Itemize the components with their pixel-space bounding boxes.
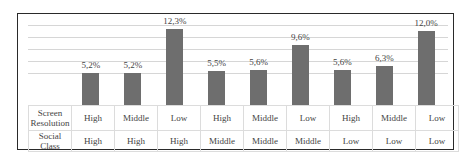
table-cell: Middle bbox=[373, 106, 416, 131]
table-cell: Middle bbox=[244, 131, 287, 152]
table-cell: High bbox=[72, 106, 115, 131]
table-cell: Low bbox=[416, 131, 459, 152]
table-cell: Middle bbox=[201, 131, 244, 152]
bar bbox=[334, 70, 351, 105]
bar bbox=[166, 29, 183, 105]
bar bbox=[82, 73, 99, 105]
table-cell: Low bbox=[416, 106, 459, 131]
bar bbox=[376, 66, 393, 105]
data-label: 12,0% bbox=[401, 18, 451, 28]
table-cell: Middle bbox=[115, 106, 158, 131]
data-table: Screen Resolution High Middle Low High M… bbox=[28, 105, 459, 152]
row-header: Screen Resolution bbox=[29, 106, 72, 131]
table-cell: Low bbox=[330, 131, 373, 152]
data-label: 5,2% bbox=[108, 60, 158, 70]
table-row-screen-resolution: Screen Resolution High Middle Low High M… bbox=[29, 106, 459, 131]
table-cell: High bbox=[115, 131, 158, 152]
table-cell: Low bbox=[373, 131, 416, 152]
table-cell: Middle bbox=[244, 106, 287, 131]
table-cell: Low bbox=[287, 106, 330, 131]
table-cell: Low bbox=[158, 106, 201, 131]
bar bbox=[292, 45, 309, 105]
data-label: 6,3% bbox=[359, 53, 409, 63]
data-label: 9,6% bbox=[275, 32, 325, 42]
table-cell: High bbox=[72, 131, 115, 152]
bar bbox=[124, 73, 141, 105]
row-header: Social Class bbox=[29, 131, 72, 152]
table-cell: High bbox=[158, 131, 201, 152]
gridline bbox=[28, 37, 448, 38]
bar bbox=[250, 70, 267, 105]
table-cell: High bbox=[201, 106, 244, 131]
bar bbox=[418, 31, 435, 105]
bar bbox=[208, 71, 225, 105]
data-label: 12,3% bbox=[150, 16, 200, 26]
table-cell: High bbox=[330, 106, 373, 131]
table-row-social-class: Social Class High High High Middle Middl… bbox=[29, 131, 459, 152]
gridline bbox=[28, 49, 448, 50]
data-label: 5,6% bbox=[234, 57, 284, 67]
gridline bbox=[28, 25, 448, 26]
table-cell: Middle bbox=[287, 131, 330, 152]
